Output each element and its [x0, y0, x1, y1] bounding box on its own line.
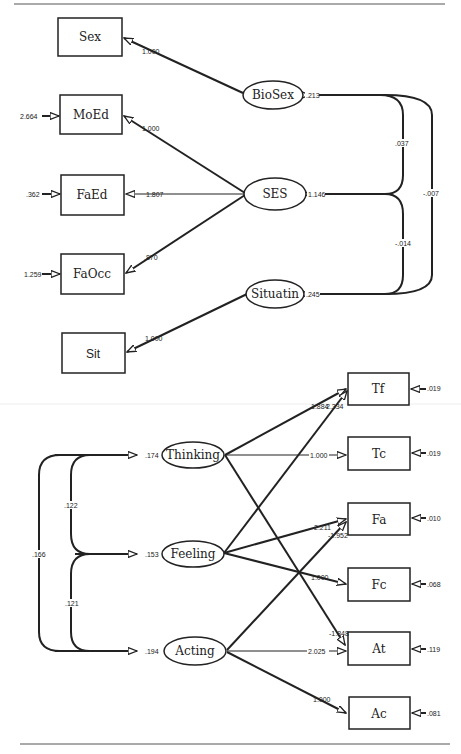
cov-thinking-feeling: .122 [64, 502, 78, 509]
observed-tf: Tf [348, 373, 409, 405]
loading-biosex-sex [124, 38, 243, 93]
svg-text:Situatin: Situatin [251, 287, 299, 301]
coef-biosex-sex: 1.000 [142, 48, 160, 55]
svg-text:FaEd: FaEd [76, 188, 107, 202]
observed-faocc: FaOcc [61, 254, 124, 294]
latent-acting: Acting [164, 637, 226, 665]
svg-text:FaOcc: FaOcc [73, 267, 111, 281]
coef-acting-at: 2.025 [308, 648, 326, 655]
sem-diagram: Sex MoEd FaEd FaOcc Sit BioSex SES Situa… [0, 0, 461, 754]
svg-text:Acting: Acting [174, 644, 215, 658]
error-moed: 2.664 [20, 113, 38, 120]
coef-ses-moed: 1.000 [142, 125, 160, 132]
error-tc: .019 [427, 450, 441, 457]
error-ac: .081 [427, 710, 441, 717]
coef-feeling-fc: 1.000 [311, 574, 329, 581]
coef-acting-ac: 1.000 [313, 696, 331, 703]
error-fa: .010 [427, 515, 441, 522]
loading-acting-ac [227, 652, 346, 713]
observed-moed: MoEd [60, 95, 122, 134]
coef-ses-faocc: .870 [144, 254, 158, 261]
covariance-curves-bottom [39, 455, 137, 651]
error-faed: .362 [26, 191, 40, 198]
observed-sex: Sex [58, 18, 122, 56]
svg-text:SES: SES [262, 187, 287, 201]
coef-situatin-sit: 1.000 [145, 335, 163, 342]
cov-thinking-acting: .166 [32, 551, 46, 558]
error-at: .119 [427, 646, 440, 653]
cov-feeling-acting: .121 [65, 600, 79, 607]
svg-text:Tc: Tc [372, 447, 386, 461]
coef-acting-fa: -1.952 [328, 532, 348, 539]
cov-ses-situatin: -.014 [395, 240, 411, 247]
cov-biosex-ses: .037 [395, 140, 409, 147]
latent-situatin: Situatin [246, 280, 304, 308]
coef-feeling-fa: 2.211 [314, 524, 331, 531]
svg-text:BioSex: BioSex [252, 88, 294, 102]
svg-text:Feeling: Feeling [171, 547, 216, 561]
error-arrows-bottom [411, 389, 426, 713]
loading-thinking-at [225, 455, 345, 645]
observed-faed: FaEd [61, 175, 124, 215]
latent-feeling: Feeling [162, 541, 224, 567]
coef-ses-faed: 1.807 [146, 191, 164, 198]
observed-at: At [348, 632, 410, 665]
error-tf: .019 [427, 385, 441, 392]
svg-text:At: At [371, 642, 385, 656]
loading-situatin-sit [127, 294, 247, 352]
loading-thinking-tf [225, 389, 346, 455]
observed-ac: Ac [349, 697, 410, 729]
variance-acting: .194 [145, 648, 159, 655]
latent-thinking: Thinking [162, 442, 224, 468]
svg-text:Thinking: Thinking [166, 448, 220, 462]
observed-tc: Tc [348, 437, 410, 470]
loadings-bottom [224, 389, 347, 713]
variance-feeling: .153 [145, 551, 159, 558]
coef-feeling-tf: 2.334 [326, 403, 344, 410]
cov-biosex-situatin: -.007 [423, 190, 439, 197]
covariance-curves-top [310, 95, 432, 294]
svg-text:Sit: Sit [86, 347, 101, 361]
error-faocc: 1.259 [24, 271, 42, 278]
variance-biosex: .213 [306, 92, 320, 99]
variance-thinking: .174 [145, 452, 159, 459]
variance-situatin: .245 [306, 291, 320, 298]
svg-text:Sex: Sex [79, 30, 101, 44]
coef-thinking-tc: 1.000 [310, 452, 328, 459]
observed-fa: Fa [348, 503, 410, 535]
latent-ses: SES [244, 178, 306, 210]
error-fc: .068 [427, 581, 441, 588]
observed-sit: Sit [62, 333, 125, 373]
observed-fc: Fc [348, 568, 410, 601]
coef-thinking-at: -1.848 [329, 630, 349, 637]
svg-text:MoEd: MoEd [73, 108, 109, 122]
svg-text:Fc: Fc [371, 578, 386, 592]
variance-ses: 1.146 [308, 191, 326, 198]
svg-text:Tf: Tf [372, 382, 386, 396]
svg-text:Ac: Ac [370, 707, 387, 721]
svg-text:Fa: Fa [372, 513, 387, 527]
latent-biosex: BioSex [243, 81, 303, 109]
loading-ses-faocc [126, 195, 245, 273]
